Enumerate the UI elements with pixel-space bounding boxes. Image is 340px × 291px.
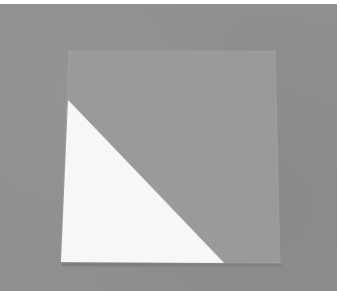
paper-shadow	[62, 263, 281, 266]
folded-paper-illustration	[0, 0, 340, 291]
